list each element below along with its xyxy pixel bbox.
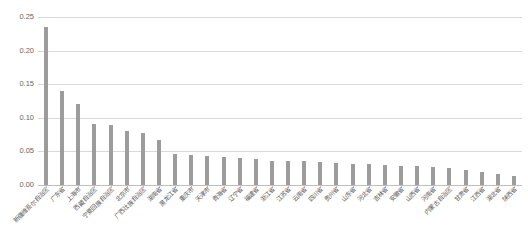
y-axis-tick-label: 0.10: [0, 114, 34, 122]
bar-slot: [280, 17, 296, 185]
x-axis-tick-label: 重庆市: [179, 186, 196, 203]
bar-slot: [70, 17, 86, 185]
bar[interactable]: [367, 164, 371, 185]
bar-slot: [490, 17, 506, 185]
x-axis-tick-label: 贵州省: [324, 186, 341, 203]
bar[interactable]: [222, 157, 226, 185]
bar[interactable]: [238, 158, 242, 185]
bar[interactable]: [92, 124, 96, 185]
bar[interactable]: [383, 165, 387, 185]
bar[interactable]: [431, 167, 435, 185]
bar-slot: [167, 17, 183, 185]
bar[interactable]: [60, 91, 64, 185]
bar-slot: [474, 17, 490, 185]
y-axis-tick-label: 0.25: [0, 13, 34, 21]
bar[interactable]: [254, 159, 258, 185]
x-axis-tick-label: 安徽省: [388, 186, 405, 203]
bar-slot: [377, 17, 393, 185]
x-axis-tick-label: 云南省: [291, 186, 308, 203]
x-axis-tick-label: 吉林省: [372, 186, 389, 203]
bar-slot: [312, 17, 328, 185]
bar-slot: [183, 17, 199, 185]
x-axis-tick-label: 新疆维吾尔自治区: [12, 186, 50, 224]
y-axis-tick-label: 0.00: [0, 181, 34, 189]
bar-chart: 0.250.200.150.100.050.00 新疆维吾尔自治区广东省上海市西…: [0, 0, 528, 250]
bar[interactable]: [157, 140, 161, 185]
plot-area: [38, 17, 522, 185]
bar-slot: [425, 17, 441, 185]
x-axis-tick-label: 河北省: [356, 186, 373, 203]
bar-slot: [54, 17, 70, 185]
x-axis-tick-label: 江苏省: [275, 186, 292, 203]
bar-slot: [441, 17, 457, 185]
y-axis-tick-label: 0.15: [0, 80, 34, 88]
bar-slot: [103, 17, 119, 185]
x-axis-tick-label: 福建省: [243, 186, 260, 203]
bar[interactable]: [480, 172, 484, 185]
bar-slot: [86, 17, 102, 185]
x-axis-tick-label: 山东省: [340, 186, 357, 203]
x-axis-tick-label: 江西省: [469, 186, 486, 203]
x-axis-tick-label: 山西省: [404, 186, 421, 203]
bar[interactable]: [399, 166, 403, 185]
bar[interactable]: [334, 163, 338, 185]
x-axis-tick-label: 甘肃省: [453, 186, 470, 203]
x-axis-tick-label: 浙江省: [259, 186, 276, 203]
bar[interactable]: [270, 161, 274, 185]
bar[interactable]: [76, 104, 80, 185]
bar[interactable]: [205, 156, 209, 185]
x-axis-tick-label: 四川省: [308, 186, 325, 203]
bar-slot: [38, 17, 54, 185]
x-axis-tick-label: 天津市: [195, 186, 212, 203]
y-axis-tick-label: 0.20: [0, 47, 34, 55]
x-axis-tick-label: 湖北省: [485, 186, 502, 203]
bar[interactable]: [302, 161, 306, 185]
x-axis-tick-label: 陕西省: [501, 186, 518, 203]
bar-slot: [457, 17, 473, 185]
bar[interactable]: [109, 125, 113, 185]
bar-slot: [296, 17, 312, 185]
bar[interactable]: [496, 174, 500, 185]
bar-slot: [119, 17, 135, 185]
bar-series: [38, 17, 522, 185]
bar-slot: [393, 17, 409, 185]
x-axis-labels: 新疆维吾尔自治区广东省上海市西藏自治区宁夏回族自治区北京市广西壮族自治区湖南省黑…: [38, 186, 522, 250]
bar-slot: [151, 17, 167, 185]
bar[interactable]: [351, 164, 355, 186]
bar[interactable]: [125, 131, 129, 185]
bar-slot: [199, 17, 215, 185]
bar[interactable]: [173, 154, 177, 185]
x-axis-tick-label: 青海省: [211, 186, 228, 203]
bar-slot: [409, 17, 425, 185]
bar[interactable]: [464, 170, 468, 185]
y-axis: 0.250.200.150.100.050.00: [0, 17, 34, 185]
bar-slot: [328, 17, 344, 185]
bar[interactable]: [415, 166, 419, 185]
bar-slot: [248, 17, 264, 185]
bar-slot: [232, 17, 248, 185]
bar[interactable]: [44, 27, 48, 185]
bar-slot: [264, 17, 280, 185]
bar-slot: [345, 17, 361, 185]
bar-slot: [361, 17, 377, 185]
bar[interactable]: [512, 176, 516, 185]
x-axis-tick-label: 广东省: [49, 186, 66, 203]
y-axis-tick-label: 0.05: [0, 148, 34, 156]
x-axis-tick-label: 辽宁省: [227, 186, 244, 203]
bar-slot: [135, 17, 151, 185]
bar[interactable]: [141, 133, 145, 185]
bar-slot: [506, 17, 522, 185]
bar[interactable]: [447, 168, 451, 185]
bar[interactable]: [318, 162, 322, 185]
bar[interactable]: [189, 155, 193, 185]
bar-slot: [215, 17, 231, 185]
bar[interactable]: [286, 161, 290, 185]
